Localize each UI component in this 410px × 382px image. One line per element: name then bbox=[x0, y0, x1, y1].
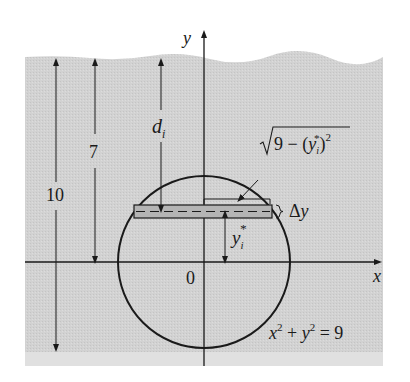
total-depth-label: 10 bbox=[46, 185, 64, 205]
delta-y-label: Δy bbox=[289, 201, 309, 221]
center-depth-label: 7 bbox=[89, 142, 98, 162]
y-axis-label: y bbox=[181, 28, 191, 48]
origin-label: 0 bbox=[186, 268, 195, 288]
tank-cross-section-diagram: y x 0 10 7 di Δy yi* 9 − (yi*)2 x2 + y2 … bbox=[0, 0, 410, 382]
svg-text:9 − (yi*)2: 9 − (yi*)2 bbox=[274, 131, 331, 156]
x-axis-label: x bbox=[372, 266, 381, 286]
